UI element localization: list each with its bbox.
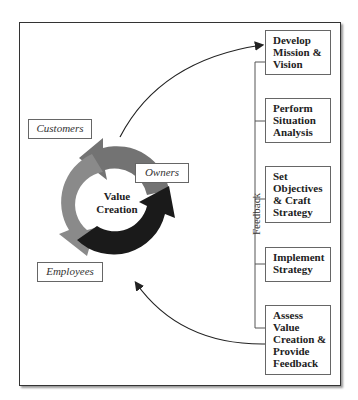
step-line: Mission & [273,46,330,58]
step-line: Assess [273,309,330,321]
value-creation-label: Value Creation [82,190,152,216]
step-develop-mission: Develop Mission & Vision [265,30,331,75]
step-line: Strategy [273,206,330,218]
step-line: Strategy [273,263,330,275]
step-line: Perform [273,102,330,114]
step-line: Analysis [273,126,330,138]
step-line: Set [273,170,330,182]
step-line: Develop [273,34,330,46]
stakeholder-customers: Customers [28,119,92,139]
step-implement-strategy: Implement Strategy [265,247,331,282]
step-line: Situation [273,114,330,126]
step-line: Vision [273,58,330,70]
stakeholder-employees: Employees [37,262,103,282]
arrow-to-mission [120,45,262,137]
step-line: Objectives [273,182,330,194]
step-line: Creation & [273,333,330,345]
step-line: Feedback [273,357,330,369]
step-line: & Craft [273,194,330,206]
step-line: Implement [273,251,330,263]
step-line: Value [273,321,330,333]
center-line-2: Creation [82,203,152,216]
step-line: Provide [273,345,330,357]
step-situation-analysis: Perform Situation Analysis [265,98,331,143]
step-assess-feedback: Assess Value Creation & Provide Feedback [265,305,331,375]
arrow-feedback-to-cycle [136,283,265,344]
step-objectives-strategy: Set Objectives & Craft Strategy [265,166,331,223]
feedback-label: Feedback [250,184,262,244]
stakeholder-owners: Owners [135,163,189,183]
center-line-1: Value [82,190,152,203]
